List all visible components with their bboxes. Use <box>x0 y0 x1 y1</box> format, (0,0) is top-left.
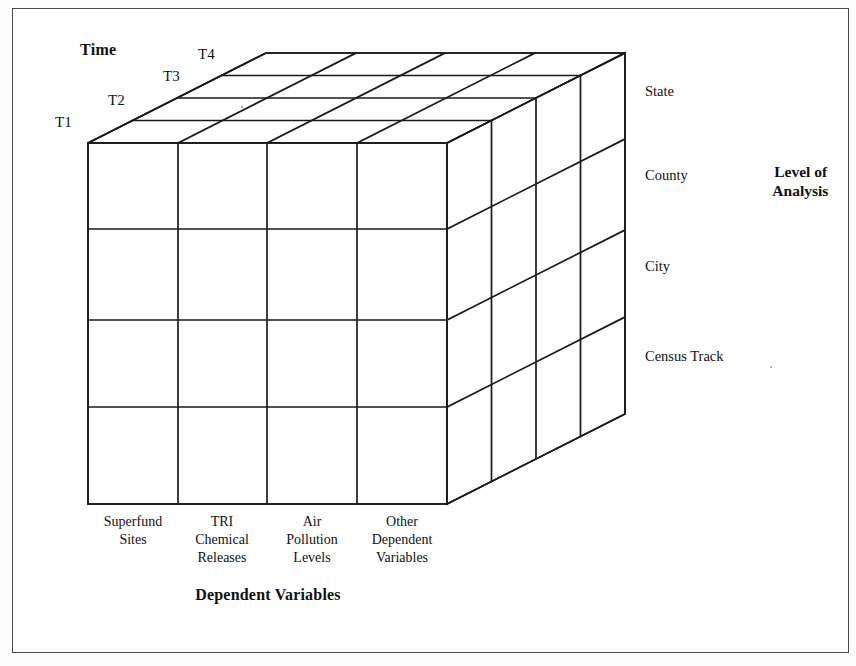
label-line: Releases <box>195 549 249 567</box>
label-line: TRI <box>195 513 249 531</box>
time-tick-t1: T1 <box>55 114 72 131</box>
level-label-census-track: Census Track <box>645 348 724 365</box>
time-tick-t2: T2 <box>108 92 125 109</box>
dependent-variables-axis-label: Dependent Variables <box>195 586 341 604</box>
label-line: Chemical <box>195 531 249 549</box>
scan-speck <box>770 366 772 368</box>
level-label-county: County <box>645 167 688 184</box>
label-line: Air <box>286 513 337 531</box>
dependent-variable-other: OtherDependentVariables <box>372 513 433 567</box>
label-line: Level of <box>758 162 829 181</box>
time-tick-t4: T4 <box>198 46 215 63</box>
figure-page: Time T1 T2 T3 T4 State County City Censu… <box>0 0 856 666</box>
time-tick-t3: T3 <box>163 68 180 85</box>
label-line: Sites <box>104 531 162 549</box>
dependent-variable-superfund-sites: SuperfundSites <box>104 513 162 549</box>
level-label-state: State <box>645 83 674 100</box>
label-line: Other <box>372 513 433 531</box>
scan-speck <box>241 106 243 108</box>
label-line: Variables <box>372 549 433 567</box>
label-line: Analysis <box>758 181 829 200</box>
level-of-analysis-axis-label: Level of Analysis <box>758 162 829 220</box>
label-line: Dependent <box>372 531 433 549</box>
dependent-variable-tri-chemical-releases: TRIChemicalReleases <box>195 513 249 567</box>
time-axis-label: Time <box>80 41 116 59</box>
label-line: Levels <box>286 549 337 567</box>
label-line: Superfund <box>104 513 162 531</box>
dependent-variable-air-pollution-levels: AirPollutionLevels <box>286 513 337 567</box>
label-line: Pollution <box>286 531 337 549</box>
level-label-city: City <box>645 258 670 275</box>
label-line <box>758 201 829 220</box>
